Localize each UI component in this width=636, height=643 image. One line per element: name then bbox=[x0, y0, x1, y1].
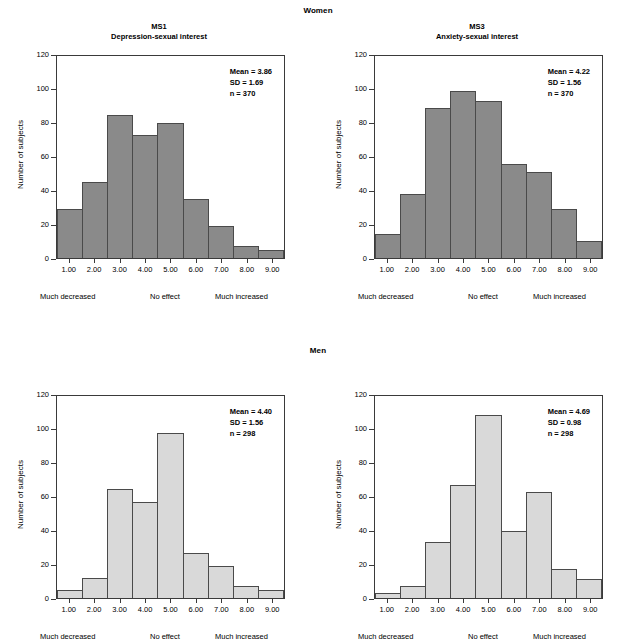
x-tick: 2.00 bbox=[81, 259, 106, 281]
y-axis-title: Number of subjects bbox=[334, 75, 343, 235]
x-tick-label: 2.00 bbox=[399, 265, 424, 274]
x-tick-label: 9.00 bbox=[260, 265, 285, 274]
plot-area: Mean = 3.86 SD = 1.69 n = 370 bbox=[56, 55, 285, 259]
x-tick: 3.00 bbox=[107, 599, 132, 621]
y-tick-label: 80 bbox=[359, 119, 367, 127]
stats-mean: Mean = 3.86 bbox=[230, 66, 272, 77]
anchor-much-increased: Much increased bbox=[215, 292, 268, 301]
x-tick-mark bbox=[590, 599, 591, 603]
stats-n: n = 298 bbox=[548, 428, 590, 439]
histogram-bar bbox=[551, 209, 577, 258]
y-tick-label: 0 bbox=[363, 595, 367, 603]
chart-panel-ms1-men: Number of subjects 020406080100120 Mean … bbox=[0, 362, 318, 643]
stats-mean: Mean = 4.40 bbox=[230, 406, 272, 417]
x-tick-mark bbox=[196, 259, 197, 263]
stats-annotation: Mean = 4.40 SD = 1.56 n = 298 bbox=[230, 406, 272, 439]
x-tick-label: 1.00 bbox=[56, 265, 81, 274]
y-tick-label: 60 bbox=[359, 153, 367, 161]
x-tick-label: 4.00 bbox=[132, 265, 157, 274]
group-header-women: Women bbox=[0, 6, 636, 15]
x-tick-mark bbox=[590, 259, 591, 263]
x-tick-mark bbox=[514, 259, 515, 263]
x-tick-mark bbox=[170, 259, 171, 263]
x-tick-label: 9.00 bbox=[578, 605, 603, 614]
x-tick-mark bbox=[514, 599, 515, 603]
stats-sd: SD = 0.98 bbox=[548, 417, 590, 428]
y-tick-label: 80 bbox=[41, 459, 49, 467]
y-tick-label: 0 bbox=[45, 255, 49, 263]
x-tick: 7.00 bbox=[527, 259, 552, 281]
plot-area: Mean = 4.69 SD = 0.98 n = 298 bbox=[374, 395, 603, 599]
panel-title-code: MS1 bbox=[0, 22, 318, 32]
x-tick-label: 3.00 bbox=[107, 265, 132, 274]
x-tick: 7.00 bbox=[527, 599, 552, 621]
x-tick: 4.00 bbox=[450, 599, 475, 621]
stats-n: n = 370 bbox=[230, 88, 272, 99]
x-tick-label: 4.00 bbox=[450, 605, 475, 614]
x-tick-label: 8.00 bbox=[234, 605, 259, 614]
histogram-bar bbox=[576, 579, 602, 598]
x-tick-mark bbox=[145, 599, 146, 603]
histogram-bar bbox=[551, 569, 577, 598]
x-tick: 7.00 bbox=[209, 599, 234, 621]
x-tick-mark bbox=[565, 259, 566, 263]
x-tick-mark bbox=[69, 259, 70, 263]
y-tick-label: 40 bbox=[41, 187, 49, 195]
y-tick-label: 20 bbox=[41, 561, 49, 569]
x-tick: 1.00 bbox=[56, 259, 81, 281]
y-axis: Number of subjects 020406080100120 bbox=[318, 55, 374, 259]
histogram-bar bbox=[82, 578, 108, 598]
anchor-much-decreased: Much decreased bbox=[358, 632, 413, 641]
y-axis-title: Number of subjects bbox=[16, 75, 25, 235]
x-tick: 8.00 bbox=[552, 599, 577, 621]
x-tick: 8.00 bbox=[234, 259, 259, 281]
x-axis: 1.002.003.004.005.006.007.008.009.00 bbox=[374, 259, 603, 281]
x-tick-label: 1.00 bbox=[374, 265, 399, 274]
x-tick: 7.00 bbox=[209, 259, 234, 281]
anchor-no-effect: No effect bbox=[468, 292, 498, 301]
histogram-bar bbox=[132, 502, 158, 598]
stats-mean: Mean = 4.22 bbox=[548, 66, 590, 77]
histogram-bar bbox=[425, 108, 451, 258]
x-tick-mark bbox=[120, 259, 121, 263]
y-axis-title: Number of subjects bbox=[334, 415, 343, 575]
x-tick-label: 9.00 bbox=[578, 265, 603, 274]
histogram-bar bbox=[208, 226, 234, 258]
panel-title: MS3 Anxiety-sexual interest bbox=[318, 22, 636, 42]
x-tick-label: 6.00 bbox=[183, 605, 208, 614]
histogram-bar bbox=[57, 209, 83, 258]
x-tick-mark bbox=[387, 599, 388, 603]
y-axis: Number of subjects 020406080100120 bbox=[0, 55, 56, 259]
stats-annotation: Mean = 3.86 SD = 1.69 n = 370 bbox=[230, 66, 272, 99]
x-tick: 4.00 bbox=[450, 259, 475, 281]
x-tick: 1.00 bbox=[374, 259, 399, 281]
histogram-bar bbox=[183, 199, 209, 258]
x-tick-label: 7.00 bbox=[209, 605, 234, 614]
histogram-bar bbox=[107, 115, 133, 258]
histogram-bar bbox=[132, 135, 158, 258]
stats-sd: SD = 1.69 bbox=[230, 77, 272, 88]
x-tick-label: 9.00 bbox=[260, 605, 285, 614]
x-tick: 5.00 bbox=[158, 259, 183, 281]
histogram-bar bbox=[501, 164, 527, 258]
x-tick: 9.00 bbox=[578, 599, 603, 621]
x-tick-mark bbox=[488, 259, 489, 263]
y-tick-label: 120 bbox=[354, 391, 367, 399]
y-tick-label: 20 bbox=[359, 561, 367, 569]
x-tick: 6.00 bbox=[183, 259, 208, 281]
panel-title-subtitle: Depression-sexual interest bbox=[0, 32, 318, 42]
histogram-bar bbox=[57, 590, 83, 598]
y-tick-label: 20 bbox=[359, 221, 367, 229]
x-tick-mark bbox=[120, 599, 121, 603]
x-tick-mark bbox=[438, 599, 439, 603]
x-tick: 2.00 bbox=[399, 259, 424, 281]
x-axis-anchors: Much decreased No effect Much increased bbox=[40, 292, 300, 306]
chart-panel-ms3-men: Number of subjects 020406080100120 Mean … bbox=[318, 362, 636, 643]
histogram-bar bbox=[526, 492, 552, 598]
anchor-much-decreased: Much decreased bbox=[40, 632, 95, 641]
histogram-bar bbox=[475, 101, 501, 258]
x-tick-mark bbox=[196, 599, 197, 603]
x-tick: 6.00 bbox=[501, 599, 526, 621]
histogram-bar bbox=[208, 566, 234, 598]
histogram-bar bbox=[526, 172, 552, 258]
